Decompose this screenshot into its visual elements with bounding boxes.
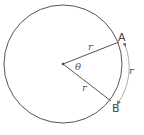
arc-label: r <box>129 65 135 76</box>
angle-label: θ <box>75 61 81 72</box>
center-point <box>62 63 65 66</box>
arc-arrow <box>118 45 129 103</box>
radian-diagram: A B r r r θ <box>0 0 144 135</box>
radius-label-a: r <box>88 41 94 52</box>
point-b-label: B <box>112 102 120 115</box>
point-a-label: A <box>118 31 126 44</box>
radius-label-b: r <box>82 82 88 93</box>
radius-line-b <box>63 64 111 101</box>
